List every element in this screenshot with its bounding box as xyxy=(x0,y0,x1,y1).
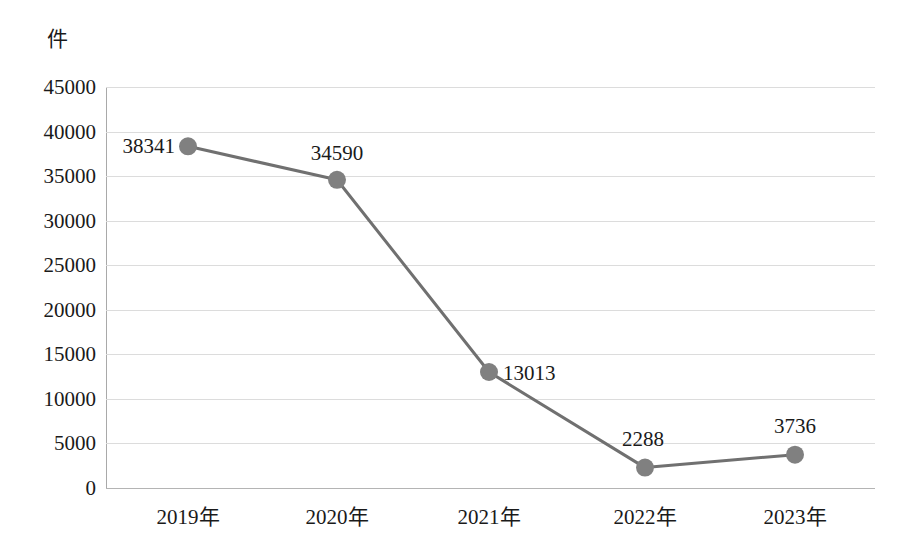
x-tick-label: 2019年 xyxy=(157,507,220,528)
x-tick-label: 2022年 xyxy=(614,507,677,528)
data-point-marker[interactable] xyxy=(786,446,804,464)
x-tick-label: 2020年 xyxy=(306,507,369,528)
data-point-marker[interactable] xyxy=(328,171,346,189)
data-point-marker[interactable] xyxy=(179,137,197,155)
x-tick-label: 2021年 xyxy=(458,507,521,528)
line-chart: 件 45000 40000 35000 30000 25000 20000 15… xyxy=(0,0,903,560)
data-point-marker[interactable] xyxy=(636,459,654,477)
series-layer xyxy=(0,0,903,560)
data-point-label: 3736 xyxy=(774,416,816,437)
data-point-marker[interactable] xyxy=(480,363,498,381)
data-point-label: 34590 xyxy=(311,143,364,164)
data-point-label: 38341 xyxy=(123,136,176,157)
series-markers xyxy=(179,137,804,476)
series-line xyxy=(188,146,795,467)
data-point-label: 2288 xyxy=(622,429,664,450)
x-tick-label: 2023年 xyxy=(764,507,827,528)
data-point-label: 13013 xyxy=(503,363,556,384)
